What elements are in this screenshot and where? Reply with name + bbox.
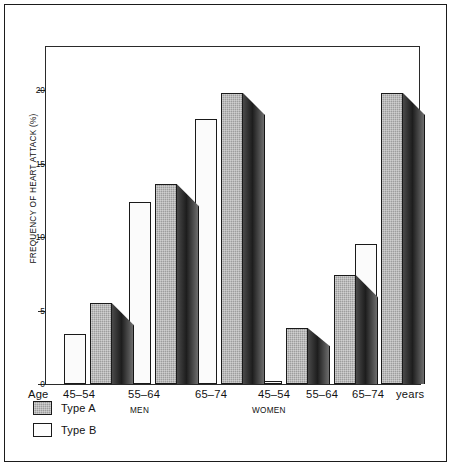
x-axis-unit-years: years <box>396 388 424 400</box>
bar-face <box>334 275 356 384</box>
bar-side-panel <box>308 328 330 384</box>
legend-label-type-a: Type A <box>61 402 96 414</box>
x-axis-label-3: 45–54 <box>258 388 290 400</box>
bar-face <box>64 334 86 384</box>
bar-face <box>90 303 112 384</box>
x-axis-group-label-women: WOMEN <box>252 406 286 415</box>
x-axis-group-label-men: MEN <box>130 406 149 415</box>
bar-face <box>286 328 308 384</box>
bar-face <box>381 93 403 384</box>
bar-series-group <box>45 46 421 384</box>
bar-type-a-3 <box>286 328 308 384</box>
legend-label-type-b: Type B <box>61 424 96 436</box>
y-tick-label: 20 <box>11 85 45 95</box>
bar-type-a-5 <box>381 93 403 384</box>
legend-item-type-a: Type A <box>33 397 96 419</box>
x-axis-label-1: 55–64 <box>128 388 160 400</box>
bar-type-a-0 <box>90 303 112 384</box>
legend-item-type-b: Type B <box>33 419 96 441</box>
y-tick-label: 5 <box>11 306 45 316</box>
y-tick-label: 15 <box>11 159 45 169</box>
y-axis-title: FREQUENCY OF HEART ATTACK (%) <box>29 74 38 304</box>
x-axis-label-4: 55–64 <box>306 388 338 400</box>
bar-type-a-4 <box>334 275 356 384</box>
bar-type-a-1 <box>155 184 177 384</box>
type-b-swatch-icon <box>33 423 52 437</box>
bar-face <box>155 184 177 384</box>
y-tick-label: 10 <box>11 232 45 242</box>
x-axis-label-5: 65–74 <box>352 388 384 400</box>
bar-chart-figure: FREQUENCY OF HEART ATTACK (%) 20151050 A… <box>0 0 453 468</box>
bar-face <box>221 93 243 384</box>
bar-side-panel <box>403 93 425 384</box>
bar-side-panel <box>243 93 265 384</box>
x-axis-label-2: 65–74 <box>195 388 227 400</box>
chart-legend: Type A Type B <box>33 397 96 441</box>
type-a-swatch-icon <box>33 401 52 415</box>
bar-side-panel <box>177 184 199 384</box>
bar-type-a-2 <box>221 93 243 384</box>
bar-type-b-0 <box>64 334 86 384</box>
x-axis-line <box>45 384 421 385</box>
